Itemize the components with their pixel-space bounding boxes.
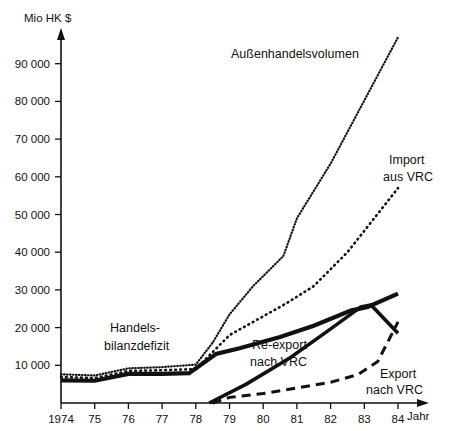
x-tick-label: 81 xyxy=(291,413,304,425)
y-tick-group xyxy=(55,64,61,366)
y-tick-label: 20 000 xyxy=(15,322,50,334)
series-annotation: nach VRC xyxy=(250,355,307,369)
y-tick-label: 70 000 xyxy=(15,133,50,145)
x-axis-title: Jahr xyxy=(407,410,430,422)
series-line-handelsbilanzdefizit xyxy=(61,294,398,381)
y-axis-title: Mio HK $ xyxy=(24,12,72,24)
series-annotation: nach VRC xyxy=(366,383,423,397)
y-tick-label-group: 10 00020 00030 00040 00050 00060 00070 0… xyxy=(15,58,50,372)
y-tick-label: 80 000 xyxy=(15,95,50,107)
series-annotation-group: AußenhandelsvolumenImportaus VRCHandels-… xyxy=(104,47,433,397)
chart-container: 10 00020 00030 00040 00050 00060 00070 0… xyxy=(0,0,449,431)
series-annotation: Außenhandelsvolumen xyxy=(231,47,359,61)
x-tick-label: 83 xyxy=(358,413,371,425)
x-tick-group xyxy=(61,403,398,409)
y-tick-label: 90 000 xyxy=(15,58,50,70)
y-axis-arrowhead xyxy=(57,28,65,40)
x-tick-label: 1974 xyxy=(48,413,74,425)
series-annotation: bilanzdefizit xyxy=(104,339,170,353)
series-annotation: Handels- xyxy=(110,321,160,335)
x-tick-label-group: 197475767778798081828384 xyxy=(48,413,405,425)
x-tick-label: 75 xyxy=(88,413,101,425)
x-axis-arrowhead xyxy=(417,399,429,407)
x-tick-label: 79 xyxy=(223,413,236,425)
series-annotation: Export xyxy=(380,367,417,381)
x-tick-label: 82 xyxy=(324,413,337,425)
y-tick-label: 30 000 xyxy=(15,284,50,296)
x-tick-label: 80 xyxy=(257,413,270,425)
y-tick-label: 60 000 xyxy=(15,171,50,183)
x-tick-label: 78 xyxy=(189,413,202,425)
series-annotation: Re-export xyxy=(252,338,307,352)
x-tick-label: 84 xyxy=(392,413,405,425)
y-tick-label: 40 000 xyxy=(15,246,50,258)
x-tick-label: 76 xyxy=(122,413,135,425)
line-chart-svg: 10 00020 00030 00040 00050 00060 00070 0… xyxy=(0,0,449,431)
y-tick-label: 10 000 xyxy=(15,359,50,371)
series-annotation: Import xyxy=(389,153,425,167)
series-annotation: aus VRC xyxy=(383,170,433,184)
x-tick-label: 77 xyxy=(156,413,169,425)
y-tick-label: 50 000 xyxy=(15,209,50,221)
